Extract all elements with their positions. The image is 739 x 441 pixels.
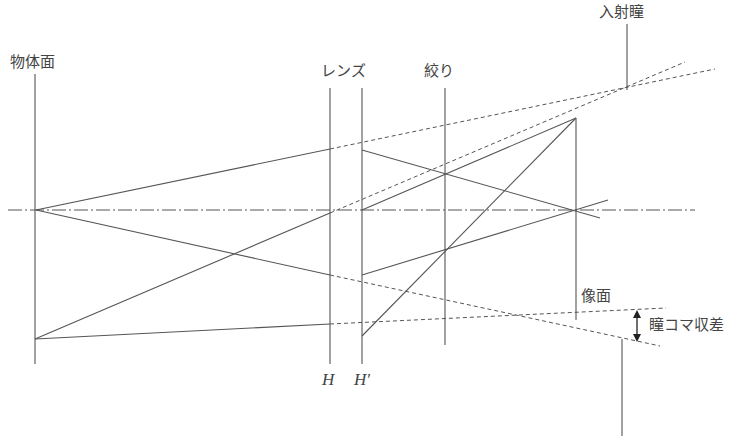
arrow-up-icon <box>633 310 641 318</box>
ray <box>35 213 330 339</box>
pupil-coma-label: 瞳コマ収差 <box>649 318 724 333</box>
ray <box>362 118 576 336</box>
dashed-extension <box>330 308 666 324</box>
dashed-extension <box>330 62 685 213</box>
image-plane-label: 像面 <box>581 289 611 304</box>
dashed-extension <box>330 69 715 149</box>
principal-plane-h-label: H <box>322 371 334 388</box>
entrance-pupil-label: 入射瞳 <box>599 5 644 20</box>
object-plane-label: 物体面 <box>10 55 55 70</box>
lens-label: レンズ <box>321 64 366 79</box>
ray <box>35 324 330 339</box>
ray <box>362 118 576 210</box>
stop-label: 絞り <box>424 64 454 79</box>
ray <box>36 149 330 210</box>
principal-plane-h-prime-label: H′ <box>354 371 370 388</box>
ray <box>36 210 330 275</box>
